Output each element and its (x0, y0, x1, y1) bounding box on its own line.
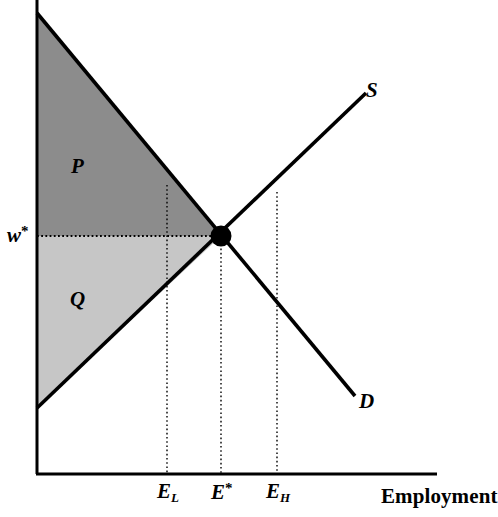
region-q-label: Q (70, 289, 85, 310)
x-tick-label-estar: E* (211, 481, 233, 503)
x-tick-label-eh: EH (266, 481, 290, 504)
supply-curve-label: S (366, 80, 378, 101)
x-tick-sup-estar: * (225, 480, 233, 496)
y-tick-base-wstar: w (7, 223, 21, 247)
x-tick-base-eh: E (266, 479, 280, 503)
region-p-label: P (71, 156, 84, 177)
x-tick-sub-eh: H (280, 490, 290, 505)
x-tick-base-el: E (157, 479, 171, 503)
y-tick-label-wstar: w* (7, 224, 29, 246)
x-tick-label-el: EL (157, 481, 179, 504)
x-axis-title: Employment (381, 486, 498, 507)
x-tick-base-estar: E (211, 480, 225, 504)
x-tick-sub-el: L (171, 490, 179, 505)
equilibrium-point-marker (211, 226, 232, 247)
demand-curve-label: D (359, 391, 374, 412)
y-tick-sup-wstar: * (21, 223, 29, 239)
